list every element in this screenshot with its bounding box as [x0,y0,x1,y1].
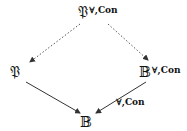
node-top: 𝔓∀,Con [78,5,118,19]
node-right: 𝔹∀,Con [139,65,180,79]
node-top-base: 𝔓 [78,4,88,20]
node-right-sup: ∀,Con [152,65,181,75]
edge-left-bottom [26,82,80,113]
edge-top-left [30,24,80,62]
edge-label-right-bottom: ∀,Con [116,97,145,107]
node-left-base: 𝔓 [10,64,20,80]
node-left: 𝔓 [10,65,20,79]
node-right-base: 𝔹 [139,64,151,80]
node-bottom-base: 𝔹 [80,114,92,130]
edge-top-right [108,24,148,60]
node-bottom: 𝔹 [80,115,92,129]
node-top-sup: ∀,Con [89,5,118,15]
